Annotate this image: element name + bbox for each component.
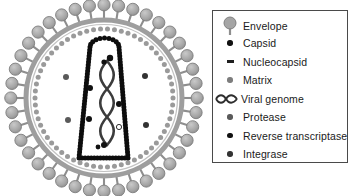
matrix-bead [132,34,137,39]
capsid-bead [102,36,107,41]
envelope-spike-knob [181,134,193,146]
matrix-bead [65,154,70,159]
matrix-bead [59,41,64,46]
matrix-dot-icon [217,72,243,89]
envelope-spike-knob [181,50,193,62]
envelope-spike-knob [22,147,34,159]
matrix-bead [38,123,43,128]
matrix-bead [45,135,50,140]
matrix-bead [162,62,167,67]
envelope-spike-knob [15,134,27,146]
component-legend: EnvelopeCapsidNucleocapsidMatrixViral ge… [212,10,348,163]
nucleocapsid-bead [101,142,107,148]
envelope-spike-knob [98,0,110,11]
capsid-bead [87,48,92,53]
matrix-bead [105,164,110,169]
legend-item-protease: Protease [217,109,286,126]
envelope-spike-knob [43,167,55,179]
reverse-transcriptase-particle [86,116,92,122]
matrix-bead [91,164,96,169]
integrase-particle [143,122,149,128]
matrix-bead [169,82,174,87]
nucleocapsid-bead [101,59,106,64]
matrix-bead [138,37,143,42]
matrix-bead [91,27,96,32]
protease-dot-icon [217,109,243,126]
reverse-transcriptase-particle [87,85,93,91]
legend-item-viral-genome: Viral genome [217,90,304,107]
matrix-bead [45,56,50,61]
matrix-bead [149,146,154,151]
legend-item-label: Protease [243,111,286,123]
envelope-spike-knob [32,158,44,170]
envelope-spike-knob [83,0,95,12]
viral-genome-helix-icon [215,90,241,107]
matrix-bead [165,123,170,128]
matrix-bead [105,27,110,32]
legend-item-envelope: Envelope [217,16,288,36]
integrase-dot-icon [217,146,243,163]
legend-dot [227,77,232,82]
envelope-spike-knob [187,63,199,75]
matrix-bead [125,31,130,36]
matrix-bead [59,150,64,155]
envelope-spike-knob [32,26,44,38]
envelope-spike-knob [173,37,185,49]
envelope-spike-knob [164,158,176,170]
matrix-bead [144,150,149,155]
matrix-bead [84,29,89,34]
envelope-spike-knob [6,106,18,118]
legend-item-label: Envelope [243,20,288,32]
matrix-bead [98,27,103,32]
matrix-bead [33,89,38,94]
envelope-spike-knob [127,181,139,193]
matrix-bead [125,160,130,165]
reverse-transcriptase-dot-icon [217,127,243,144]
envelope-spike-knob [164,26,176,38]
legend-dash [227,60,234,63]
envelope-spike-knob [191,92,203,104]
envelope-spike-knob [56,175,68,187]
matrix-bead [170,102,175,107]
envelope-spike-knob [5,92,17,104]
matrix-bead [171,96,176,101]
matrix-bead [132,157,137,162]
matrix-bead [41,62,46,67]
matrix-bead [167,75,172,80]
matrix-bead [119,162,124,167]
legend-item-list: EnvelopeCapsidNucleocapsidMatrixViral ge… [213,11,347,162]
capsid-bead [98,36,103,41]
legend-item-label: Capsid [243,37,276,49]
envelope-spike-knob [112,184,124,196]
legend-item-label: Matrix [243,74,272,86]
envelope-spike-knob [140,9,152,21]
envelope-spike-knob [69,3,81,15]
legend-item-reverse-transcriptase: Reverse transcriptase [217,127,347,144]
matrix-bead [154,51,159,56]
matrix-bead [165,68,170,73]
envelope-spike-knob [83,184,95,196]
matrix-bead [34,82,39,87]
nucleocapsid-bead [96,145,101,150]
matrix-bead [119,29,124,34]
envelope-spike-knob [56,9,68,21]
matrix-bead [65,37,70,42]
virus-structure-figure: EnvelopeCapsidNucleocapsidMatrixViral ge… [0,0,354,196]
lipid-membrane-inner [31,25,178,172]
envelope-spike-knob [6,77,18,89]
matrix-bead [158,56,163,61]
matrix-bead [71,34,76,39]
matrix-bead [33,96,38,101]
envelope-spike-knob [15,50,27,62]
protease-particle [116,124,121,129]
envelope-spike-knob [112,0,124,12]
matrix-bead [33,102,38,107]
legend-item-label: Viral genome [241,93,304,105]
integrase-particle [142,73,148,79]
envelope-spike-knob [127,3,139,15]
envelope-spike-knob [187,121,199,133]
matrix-bead [149,45,154,50]
matrix-bead [38,68,43,73]
matrix-bead [78,31,83,36]
legend-dot [227,40,232,45]
